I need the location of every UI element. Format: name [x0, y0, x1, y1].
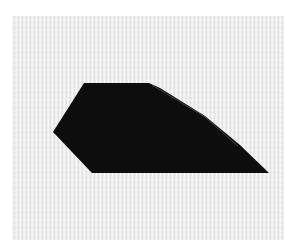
black-cutout-shape	[0, 0, 296, 250]
